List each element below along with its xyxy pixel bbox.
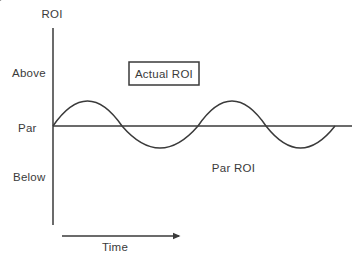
tick-label-above: Above [12,67,46,79]
actual-roi-curve [53,101,335,148]
tick-label-below: Below [13,171,46,183]
tick-label-par: Par [18,122,37,134]
x-axis-title: Time [102,241,128,253]
roi-time-chart: ROI Above Par Below Actual ROI Par ROI T… [0,0,361,261]
y-axis-title: ROI [41,8,62,20]
actual-roi-label: Actual ROI [135,68,193,80]
par-roi-label: Par ROI [212,162,255,174]
roi-time-diagram: ROI Above Par Below Actual ROI Par ROI T… [0,0,361,261]
